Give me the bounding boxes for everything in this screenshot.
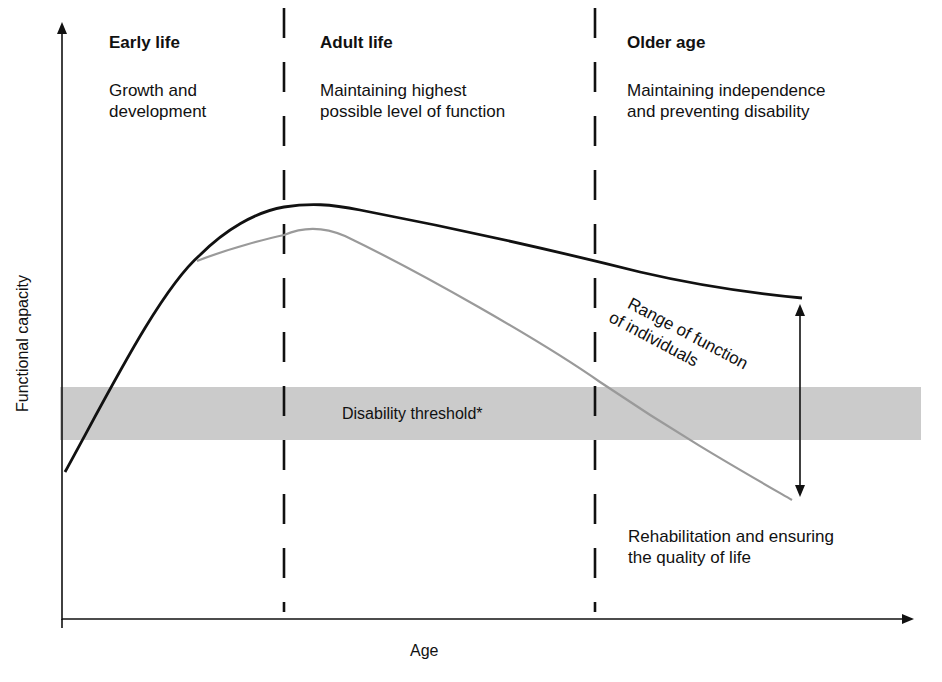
phase-description-adult-life: Maintaining highest possible level of fu… xyxy=(320,80,505,122)
y-axis-arrow-icon xyxy=(57,22,67,34)
phase-description-line: possible level of function xyxy=(320,101,505,122)
y-axis-label: Functional capacity xyxy=(14,275,32,412)
disability-threshold-label: Disability threshold* xyxy=(342,405,483,423)
phase-description-line: Maintaining independence xyxy=(627,80,826,101)
range-arrow-up-icon xyxy=(795,304,805,316)
disability-threshold-band xyxy=(60,387,921,440)
phase-description-older-age: Maintaining independence and preventing … xyxy=(627,80,826,122)
rehabilitation-text: Rehabilitation and ensuring the quality … xyxy=(628,526,834,568)
phase-description-line: and preventing disability xyxy=(627,101,826,122)
phase-description-line: development xyxy=(109,101,206,122)
x-axis-label: Age xyxy=(410,642,438,660)
phase-title-adult-life: Adult life xyxy=(320,33,393,53)
x-axis-arrow-icon xyxy=(902,614,914,624)
rehabilitation-line: Rehabilitation and ensuring xyxy=(628,526,834,547)
phase-description-early-life: Growth and development xyxy=(109,80,206,122)
phase-description-line: Maintaining highest xyxy=(320,80,505,101)
rehabilitation-line: the quality of life xyxy=(628,547,834,568)
phase-description-line: Growth and xyxy=(109,80,206,101)
phase-title-older-age: Older age xyxy=(627,33,705,53)
range-arrow-down-icon xyxy=(795,485,805,497)
phase-title-early-life: Early life xyxy=(109,33,180,53)
